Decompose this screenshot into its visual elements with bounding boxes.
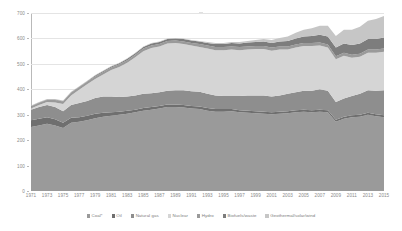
x-tick-label: 1999	[250, 193, 260, 199]
stacked-area-chart: 0100200300400500600700 19711973197519771…	[0, 0, 402, 231]
y-tick-label: 300	[17, 112, 25, 117]
y-tick-mark	[27, 140, 29, 141]
y-axis: 0100200300400500600700	[0, 13, 29, 191]
x-tick-label: 2001	[266, 193, 276, 199]
y-tick-mark	[27, 64, 29, 65]
y-tick-label: 200	[17, 138, 25, 143]
legend-item[interactable]: Biofuels/waste	[223, 213, 257, 219]
x-tick-label: 2011	[347, 193, 357, 199]
y-tick-mark	[27, 166, 29, 167]
y-tick-mark	[27, 13, 29, 14]
y-tick-mark	[27, 115, 29, 116]
x-tick-label: 1973	[42, 193, 52, 199]
x-axis: 1971197319751977197919811983198519871989…	[31, 193, 384, 203]
x-tick-label: 1989	[170, 193, 180, 199]
legend-swatch-icon	[112, 214, 115, 217]
legend-swatch-icon	[168, 214, 171, 217]
y-tick-label: 600	[17, 36, 25, 41]
y-tick-label: 700	[17, 11, 25, 16]
plot-area	[31, 13, 384, 191]
x-tick-label: 2009	[331, 193, 341, 199]
y-tick-mark	[27, 38, 29, 39]
x-tick-label: 1975	[58, 193, 68, 199]
y-tick-mark	[27, 89, 29, 90]
y-tick-label: 400	[17, 87, 25, 92]
legend-label: Oil	[116, 213, 122, 219]
y-tick-label: 100	[17, 163, 25, 168]
legend-swatch-icon	[131, 214, 134, 217]
x-tick-label: 1971	[26, 193, 36, 199]
x-tick-label: 2007	[315, 193, 325, 199]
x-tick-label: 2015	[379, 193, 389, 199]
chart-legend: Coal*OilNatural gasNuclearHydroBiofuels/…	[0, 209, 402, 223]
legend-item[interactable]: Oil	[112, 213, 122, 219]
legend-item[interactable]: Nuclear	[168, 213, 188, 219]
y-tick-mark	[27, 191, 29, 192]
legend-label: Biofuels/waste	[227, 213, 256, 219]
x-tick-label: 1991	[186, 193, 196, 199]
legend-label: Coal*	[92, 213, 103, 219]
x-tick-label: 1993	[202, 193, 212, 199]
x-tick-label: 2003	[283, 193, 293, 199]
legend-label: Natural gas	[136, 213, 159, 219]
x-tick-label: 1997	[234, 193, 244, 199]
legend-swatch-icon	[223, 214, 226, 217]
legend-item[interactable]: Natural gas	[131, 213, 159, 219]
y-tick-label: 500	[17, 61, 25, 66]
x-tick-label: 1977	[74, 193, 84, 199]
x-tick-label: 1979	[90, 193, 100, 199]
x-tick-label: 1983	[122, 193, 132, 199]
x-tick-label: 1985	[138, 193, 148, 199]
legend-item[interactable]: Hydro	[197, 213, 214, 219]
x-tick-label: 1987	[154, 193, 164, 199]
legend-label: Geothermal/solar/wind	[270, 213, 315, 219]
x-tick-label: 2005	[299, 193, 309, 199]
x-tick-label: 1995	[218, 193, 228, 199]
legend-swatch-icon	[197, 214, 200, 217]
legend-item[interactable]: Geothermal/solar/wind	[265, 213, 315, 219]
legend-item[interactable]: Coal*	[87, 213, 103, 219]
area-series-group	[31, 13, 384, 191]
legend-swatch-icon	[87, 214, 90, 217]
legend-swatch-icon	[265, 214, 268, 217]
x-tick-label: 1981	[106, 193, 116, 199]
legend-label: Hydro	[202, 213, 214, 219]
legend-label: Nuclear	[172, 213, 187, 219]
y-tick-label: 0	[22, 189, 25, 194]
x-tick-label: 2013	[363, 193, 373, 199]
